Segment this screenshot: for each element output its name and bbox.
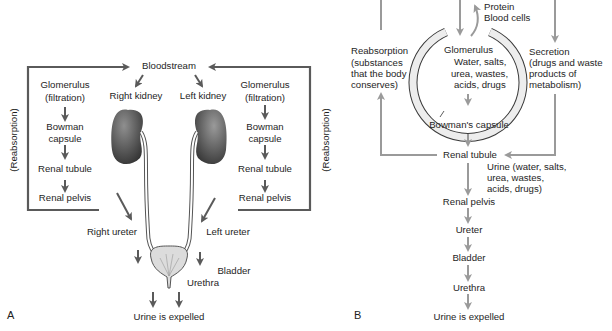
right-bowman-label: Bowman	[246, 121, 283, 133]
right-ureter-label: Right ureter	[87, 226, 137, 238]
renal-pelvis-label: Renal pelvis	[443, 196, 495, 208]
bladder-label-b: Bladder	[452, 252, 485, 264]
right-renal-pelvis-label: Renal pelvis	[239, 192, 291, 204]
right-renal-tubule-label: Renal tubule	[238, 163, 292, 175]
left-bowman-label: Bowman	[46, 121, 83, 133]
left-glomerulus-label: Glomerulus	[40, 79, 89, 91]
protein-label: Protein	[484, 1, 514, 13]
reabsorption-desc-1: (substances	[351, 57, 403, 69]
urine-desc-2: urea, wastes,	[487, 172, 544, 184]
glomerulus-contents-2: urea, wastes,	[451, 68, 508, 80]
left-renal-pelvis-label: Renal pelvis	[39, 192, 91, 204]
glomerulus-contents-1: Water, salts,	[454, 56, 506, 68]
glomerulus-contents-3: acids, drugs	[454, 79, 506, 91]
left-kidney-label: Left kidney	[180, 90, 226, 102]
bowmans-capsule-label: Bowman's capsule	[429, 119, 509, 131]
urethra-label: Urethra	[187, 277, 219, 289]
urethra-label-b: Urethra	[453, 282, 485, 294]
right-filtration-label: (filtration)	[245, 92, 285, 104]
glomerulus-label: Glomerulus	[444, 44, 493, 56]
urine-desc-1: Urine (water, salts,	[487, 161, 566, 173]
urine-expelled-label-b: Urine is expelled	[434, 311, 505, 323]
blood-cells-label: Blood cells	[484, 12, 530, 24]
ureter-label: Ureter	[456, 224, 483, 236]
left-capsule-label: capsule	[48, 133, 81, 145]
secretion-desc-3: metabolism)	[529, 79, 581, 91]
urine-expelled-label-a: Urine is expelled	[134, 311, 205, 323]
urine-desc-3: acids, drugs)	[487, 183, 542, 195]
right-reabsorption-label: (Reabsorption)	[320, 108, 331, 171]
secretion-title: Secretion	[529, 46, 570, 58]
reabsorption-desc-2: that the body	[351, 68, 406, 80]
left-reabsorption-label: (Reabsorption)	[8, 108, 19, 171]
right-glomerulus-label: Glomerulus	[240, 79, 289, 91]
secretion-desc-2: products of	[529, 68, 576, 80]
left-filtration-label: (filtration)	[45, 92, 85, 104]
panel-b-letter: B	[354, 309, 361, 321]
panel-a-letter: A	[7, 309, 14, 321]
right-capsule-label: capsule	[248, 133, 281, 145]
reabsorption-desc-3: conserves)	[351, 79, 398, 91]
bladder-label: Bladder	[217, 265, 250, 277]
left-renal-tubule-label: Renal tubule	[38, 163, 92, 175]
right-kidney-label: Right kidney	[110, 90, 163, 102]
reabsorption-title: Reabsorption	[351, 45, 408, 57]
secretion-desc-1: (drugs and waste	[529, 57, 603, 69]
bloodstream-label: Bloodstream	[142, 60, 196, 72]
renal-tubule-label: Renal tubule	[443, 149, 497, 161]
left-ureter-label: Left ureter	[206, 226, 250, 238]
